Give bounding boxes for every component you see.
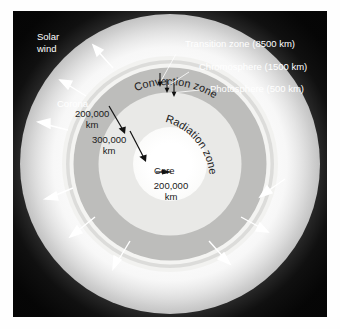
convection-thickness-value: 200,000 [75, 108, 109, 119]
solar-wind-arrow [93, 45, 113, 68]
solar-wind-arrow [113, 241, 130, 269]
photosphere-callout: Photosphere (500 km) [210, 83, 304, 95]
diagram-panel: Convection zone Radiation zone [13, 11, 327, 317]
core-diameter-value: 200,000 [143, 180, 199, 191]
core-diameter-label: 200,000 km [143, 180, 199, 202]
solar-wind-arrow [70, 217, 95, 237]
solar-structure-figure: Convection zone Radiation zone [0, 0, 340, 329]
solar-wind-arrow [60, 80, 86, 96]
core-label: Core [154, 165, 175, 176]
radiation-thickness-value: 300,000 [92, 134, 126, 145]
solar-wind-label: Solar wind [37, 31, 59, 54]
radiation-thickness-unit: km [92, 145, 126, 156]
annotation-vectors [13, 11, 327, 317]
solar-wind-line1: Solar [37, 31, 59, 43]
arrowhead-convection-dim [119, 127, 126, 134]
arrowhead-radiation-dim [139, 155, 146, 162]
convection-thickness-label: 200,000 km [75, 108, 109, 130]
transition-zone-callout: Transition zone (8500 km) [185, 38, 295, 50]
radiation-thickness-label: 300,000 km [92, 134, 126, 156]
convection-thickness-unit: km [75, 119, 109, 130]
solar-wind-arrow [241, 217, 268, 232]
solar-wind-arrows [38, 45, 285, 269]
core-diameter-unit: km [143, 191, 199, 202]
solar-wind-arrow [45, 188, 73, 200]
solar-wind-arrow [260, 179, 285, 197]
solar-wind-arrow [38, 119, 68, 130]
solar-wind-line2: wind [37, 43, 59, 55]
chromosphere-callout: Chromosphere (1500 km) [199, 61, 307, 73]
solar-wind-arrow [209, 241, 230, 264]
